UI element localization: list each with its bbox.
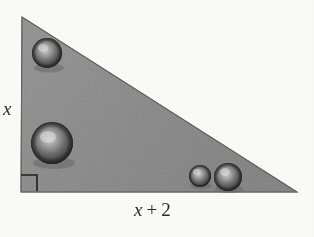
sphere-highlight [38, 44, 48, 52]
geometry-figure: x x+2 [0, 0, 314, 237]
sphere-highlight [193, 169, 201, 175]
sphere-rim [31, 122, 73, 164]
label-leg-horizontal-number: 2 [161, 199, 171, 220]
sphere-highlight [40, 131, 56, 143]
sphere-rim [32, 38, 62, 68]
sphere-rim [189, 165, 211, 187]
label-leg-horizontal: x+2 [134, 200, 171, 219]
label-leg-vertical: x [3, 99, 11, 118]
sphere-highlight [220, 168, 230, 176]
label-leg-horizontal-operator: + [146, 199, 157, 220]
label-leg-horizontal-variable: x [134, 199, 142, 220]
sphere-rim [214, 163, 242, 191]
